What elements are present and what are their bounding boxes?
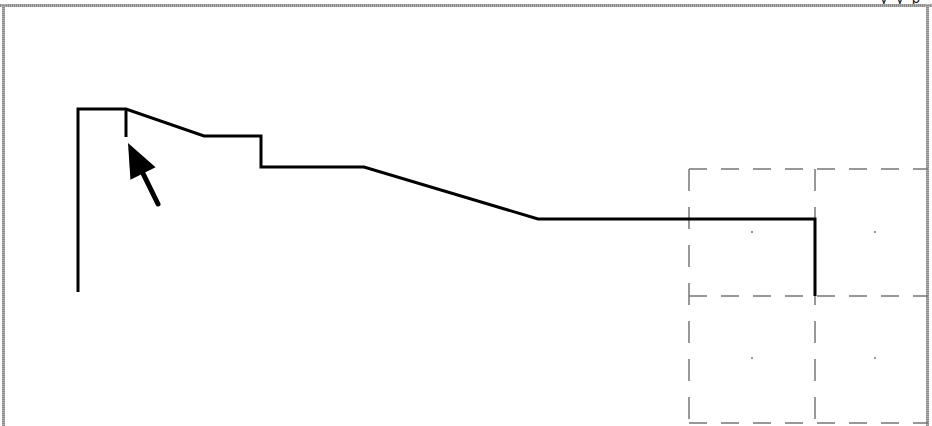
drawing-canvas[interactable]: [0, 0, 932, 426]
grid-center-dot: [874, 231, 876, 233]
grid-center-dot: [751, 357, 753, 359]
grid-center-dot: [874, 357, 876, 359]
tool-grid: [689, 169, 928, 426]
cad-viewport[interactable]: y y p: [0, 0, 932, 426]
grid-center-dot: [751, 231, 753, 233]
arrow-pointer-icon: [128, 143, 158, 204]
turning-profile-line[interactable]: [78, 109, 815, 296]
